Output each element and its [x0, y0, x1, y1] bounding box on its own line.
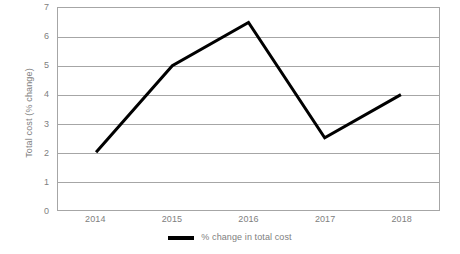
y-axis-tick-label: 0 — [9, 206, 49, 216]
x-axis-tick-label: 2015 — [142, 214, 202, 225]
line-chart: Total cost (% change) 01234567 201420152… — [0, 0, 460, 254]
legend-line-swatch — [168, 236, 194, 240]
plot-area — [57, 7, 440, 211]
y-axis-tick-label: 6 — [9, 31, 49, 41]
chart-legend: % change in total cost — [0, 232, 460, 243]
x-axis-tick-label: 2017 — [295, 214, 355, 225]
series-layer — [58, 8, 439, 210]
y-axis-tick-label: 3 — [9, 119, 49, 129]
y-axis-tick-label: 1 — [9, 177, 49, 187]
y-axis-tick-label: 7 — [9, 2, 49, 12]
y-axis-tick-label: 4 — [9, 89, 49, 99]
series-line — [96, 22, 401, 152]
y-axis-tick-label: 5 — [9, 60, 49, 70]
legend-label: % change in total cost — [201, 232, 291, 243]
x-axis-tick-label: 2018 — [372, 214, 432, 225]
x-axis-tick-label: 2016 — [219, 214, 279, 225]
y-axis-tick-label: 2 — [9, 148, 49, 158]
x-axis-tick-label: 2014 — [65, 214, 125, 225]
